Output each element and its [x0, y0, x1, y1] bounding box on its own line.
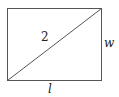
width-label: w: [104, 36, 115, 50]
diagonal-label: 2: [41, 30, 49, 44]
length-label: l: [48, 82, 52, 96]
diagram-canvas: 2 w l: [0, 0, 119, 97]
diagonal-line: [8, 9, 102, 81]
